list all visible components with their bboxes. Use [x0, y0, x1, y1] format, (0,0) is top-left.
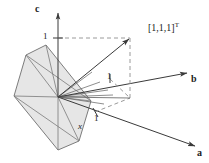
- vector-label-text: [1,1,1]: [148, 22, 175, 33]
- axis-label-b: b: [191, 74, 197, 84]
- vector-label: [1,1,1]T: [148, 23, 179, 33]
- vector-label-superscript: T: [175, 21, 179, 29]
- unit-mark-b: 1: [107, 72, 112, 81]
- dash-a-unit-to-base: [95, 98, 130, 112]
- axis-label-a: a: [197, 148, 202, 158]
- axis-label-c: c: [35, 4, 39, 14]
- vector-111-line: [58, 39, 129, 97]
- figure-container: c b a 1 1 1 [1,1,1]T x: [0, 0, 209, 163]
- plane-label: x: [78, 122, 82, 131]
- unit-mark-a: 1: [94, 114, 99, 123]
- unit-mark-c: 1: [43, 32, 48, 41]
